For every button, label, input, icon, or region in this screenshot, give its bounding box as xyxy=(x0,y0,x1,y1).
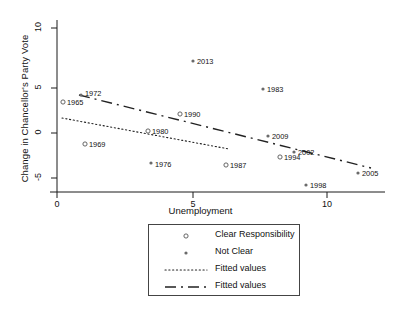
point-label-1972: 1972 xyxy=(85,89,101,98)
point-label-2009: 2009 xyxy=(272,132,288,141)
legend-label-not-clear: Not Clear xyxy=(215,246,253,256)
data-point-1994 xyxy=(278,155,282,159)
point-label-1987: 1987 xyxy=(230,161,246,170)
chart-figure: Change in Chancellor's Party Vote Unempl… xyxy=(0,0,401,311)
point-label-1983: 1983 xyxy=(267,85,283,94)
y-tick-label-0: 0 xyxy=(33,122,43,142)
legend-item-fitted-values-dotted: Fitted values xyxy=(149,261,301,278)
y-axis-title: Change in Chancellor's Party Vote xyxy=(19,9,30,209)
dashed-line-icon xyxy=(163,278,209,295)
x-tick-label-0: 0 xyxy=(47,199,67,209)
legend-item-fitted-values-dashed: Fitted values xyxy=(149,278,301,295)
point-label-1969: 1969 xyxy=(89,140,105,149)
fitted-line-dashed xyxy=(79,95,371,168)
y-tick-label-5: 5 xyxy=(33,77,43,97)
data-point-2013 xyxy=(191,59,194,62)
legend-label-clear-responsibility: Clear Responsibility xyxy=(215,229,295,239)
x-tick-label-5: 5 xyxy=(183,199,203,209)
data-point-1976 xyxy=(149,161,152,164)
data-point-1980 xyxy=(146,129,150,133)
data-point-1998 xyxy=(304,183,307,186)
data-point-1969 xyxy=(83,142,87,146)
legend-item-not-clear: Not Clear xyxy=(149,244,301,261)
y-tick-label-10: 10 xyxy=(33,17,43,37)
filled-dot-icon xyxy=(163,244,209,261)
point-label-1976: 1976 xyxy=(155,160,171,169)
point-label-2005: 2005 xyxy=(362,169,378,178)
point-label-1980: 1980 xyxy=(152,127,168,136)
open-circle-icon xyxy=(163,227,209,244)
data-point-1983 xyxy=(261,87,264,90)
chart-legend: Clear Responsibility Not Clear Fitted va… xyxy=(148,224,300,296)
legend-label-fitted-values-dashed: Fitted values xyxy=(215,280,266,290)
point-label-1998: 1998 xyxy=(310,181,326,190)
dotted-line-icon xyxy=(163,261,209,278)
y-tick-label-neg5: -5 xyxy=(33,167,43,187)
data-point-2009 xyxy=(266,134,269,137)
legend-item-clear-responsibility: Clear Responsibility xyxy=(149,227,301,244)
point-label-1965: 1965 xyxy=(67,98,83,107)
data-point-1965 xyxy=(61,100,65,104)
point-label-1990: 1990 xyxy=(184,110,200,119)
legend-label-fitted-values-dotted: Fitted values xyxy=(215,263,266,273)
x-tick-label-10: 10 xyxy=(317,199,337,209)
point-label-2002: 2002 xyxy=(298,148,314,157)
point-label-2013: 2013 xyxy=(197,57,213,66)
data-point-2005 xyxy=(356,171,359,174)
data-point-1987 xyxy=(224,163,228,167)
data-point-1972 xyxy=(79,93,82,96)
data-point-1990 xyxy=(178,112,182,116)
